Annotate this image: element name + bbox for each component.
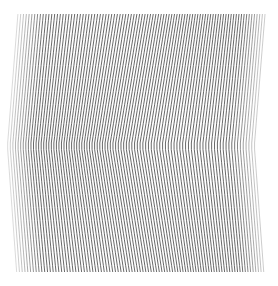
artwork-canvas — [0, 0, 278, 286]
line-pattern-artwork — [0, 0, 278, 286]
